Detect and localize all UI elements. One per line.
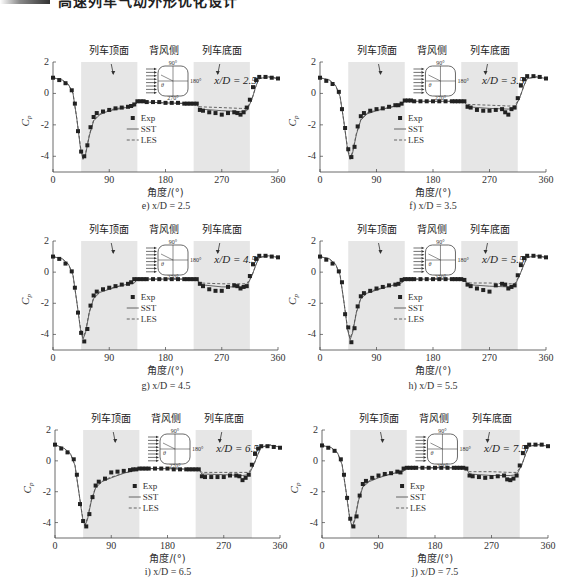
x-tick-label: 180 (426, 352, 441, 363)
svg-text:θ: θ (428, 261, 431, 267)
exp-marker (446, 466, 450, 470)
exp-marker (345, 496, 349, 500)
exp-marker (66, 450, 70, 454)
caption-g: g) x/D = 4.5 (66, 380, 266, 391)
exp-marker (85, 327, 89, 331)
caption-j: j) x/D = 7.5 (335, 566, 535, 577)
legend-exp-marker-icon (398, 116, 402, 120)
region-label-leeward: 背风侧 (149, 223, 179, 235)
x-tick-label: 180 (428, 540, 443, 551)
x-tick-label: 90 (372, 174, 382, 185)
exp-marker (245, 284, 249, 288)
exp-marker (439, 466, 443, 470)
exp-marker (343, 312, 347, 316)
exp-marker (318, 76, 322, 80)
y-tick-label: 0 (44, 87, 49, 98)
exp-marker (92, 115, 96, 119)
x-tick-label: 180 (160, 540, 175, 551)
exp-marker (340, 280, 344, 284)
exp-marker (84, 524, 88, 528)
exp-marker (207, 287, 211, 291)
exp-marker (79, 150, 83, 154)
xd-annotation: x/D = 7.5 (483, 442, 527, 454)
exp-marker (214, 289, 218, 293)
exp-marker (320, 443, 324, 447)
exp-marker (107, 286, 111, 290)
exp-marker (383, 472, 387, 476)
x-axis-label: 角度/(°) (415, 186, 451, 198)
xd-annotation: x/D = 5.5 (481, 253, 525, 265)
x-axis-label: 角度/(°) (417, 552, 453, 564)
exp-marker (226, 285, 230, 289)
svg-text:180°: 180° (457, 257, 469, 263)
exp-marker (331, 262, 335, 266)
exp-marker (355, 514, 359, 518)
svg-text:180°: 180° (459, 446, 471, 452)
y-tick-label: 0 (44, 266, 49, 277)
region-label-top: 列车顶面 (89, 44, 129, 56)
exp-marker (356, 304, 360, 308)
svg-text:180°: 180° (190, 257, 202, 263)
exp-marker (242, 110, 246, 114)
exp-marker (387, 283, 391, 287)
x-tick-label: 0 (318, 352, 323, 363)
svg-text:θ: θ (428, 82, 431, 88)
x-tick-label: 360 (271, 174, 286, 185)
x-tick-label: 0 (53, 540, 58, 551)
exp-marker (157, 100, 161, 104)
exp-marker (324, 79, 328, 83)
xd-annotation: x/D = 3.5 (481, 74, 525, 86)
caption-h: h) x/D = 5.5 (333, 380, 533, 391)
exp-marker (209, 475, 213, 479)
exp-marker (353, 326, 357, 330)
legend-sst-label: SST (143, 492, 159, 502)
figure-grid: 列车顶面背风侧列车底面90°180°270°θx/D = 2.509018027… (0, 0, 574, 581)
exp-marker (75, 473, 79, 477)
exp-marker (272, 445, 276, 449)
exp-marker (170, 277, 174, 281)
exp-marker (82, 339, 86, 343)
exp-marker (103, 477, 107, 481)
exp-marker (122, 469, 126, 473)
exp-marker (340, 107, 344, 111)
legend-exp-label: Exp (141, 113, 156, 123)
exp-marker (257, 254, 261, 258)
legend-sst-label: SST (410, 492, 426, 502)
exp-marker (94, 484, 98, 488)
exp-marker (346, 147, 350, 151)
y-tick-label: 2 (46, 424, 51, 435)
region-label-leeward: 背风侧 (417, 223, 447, 235)
exp-marker (544, 255, 548, 259)
exp-marker (76, 311, 80, 315)
exp-marker (494, 283, 498, 287)
exp-marker (471, 474, 475, 478)
exp-marker (270, 76, 274, 80)
y-tick-label: 2 (311, 56, 316, 67)
exp-marker (381, 106, 385, 110)
exp-marker (95, 111, 99, 115)
legend-exp-marker-icon (398, 295, 402, 299)
chart-panel-j: 列车顶面背风侧列车底面90°180°270°θx/D = 7.509018027… (288, 412, 556, 564)
x-tick-label: 270 (484, 540, 499, 551)
exp-marker (398, 470, 402, 474)
exp-marker (248, 98, 252, 102)
exp-marker (533, 443, 537, 447)
exp-marker (264, 75, 268, 79)
legend-exp-marker-icon (133, 484, 137, 488)
exp-marker (197, 467, 201, 471)
svg-text:θ: θ (161, 82, 164, 88)
x-tick-label: 0 (320, 540, 325, 551)
x-tick-label: 180 (158, 174, 173, 185)
x-tick-label: 90 (106, 540, 116, 551)
exp-marker (353, 145, 357, 149)
x-tick-label: 90 (104, 352, 114, 363)
region-label-top: 列车顶面 (89, 223, 129, 235)
cross-section-inset-icon: 90°180°270°θ (146, 60, 202, 101)
exp-marker (349, 155, 353, 159)
exp-marker (59, 447, 63, 451)
exp-marker (418, 277, 422, 281)
exp-marker (147, 467, 151, 471)
y-axis-label: Cp (288, 482, 302, 493)
exp-marker (527, 443, 531, 447)
exp-marker (444, 277, 448, 281)
